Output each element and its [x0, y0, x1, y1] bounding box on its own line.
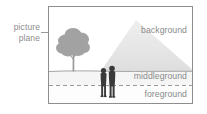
label-background: background	[141, 25, 187, 35]
picture-plane-diagram: picture plane	[0, 0, 207, 114]
annotation-line-1: picture	[0, 22, 40, 33]
leader-dash-icon	[41, 32, 48, 33]
label-foreground: foreground	[144, 89, 187, 99]
label-middleground: middleground	[134, 71, 187, 81]
annotation-line-2: plane	[0, 33, 40, 44]
picture-plane-frame: background middleground foreground	[48, 6, 193, 104]
picture-plane-annotation: picture plane	[0, 22, 40, 43]
